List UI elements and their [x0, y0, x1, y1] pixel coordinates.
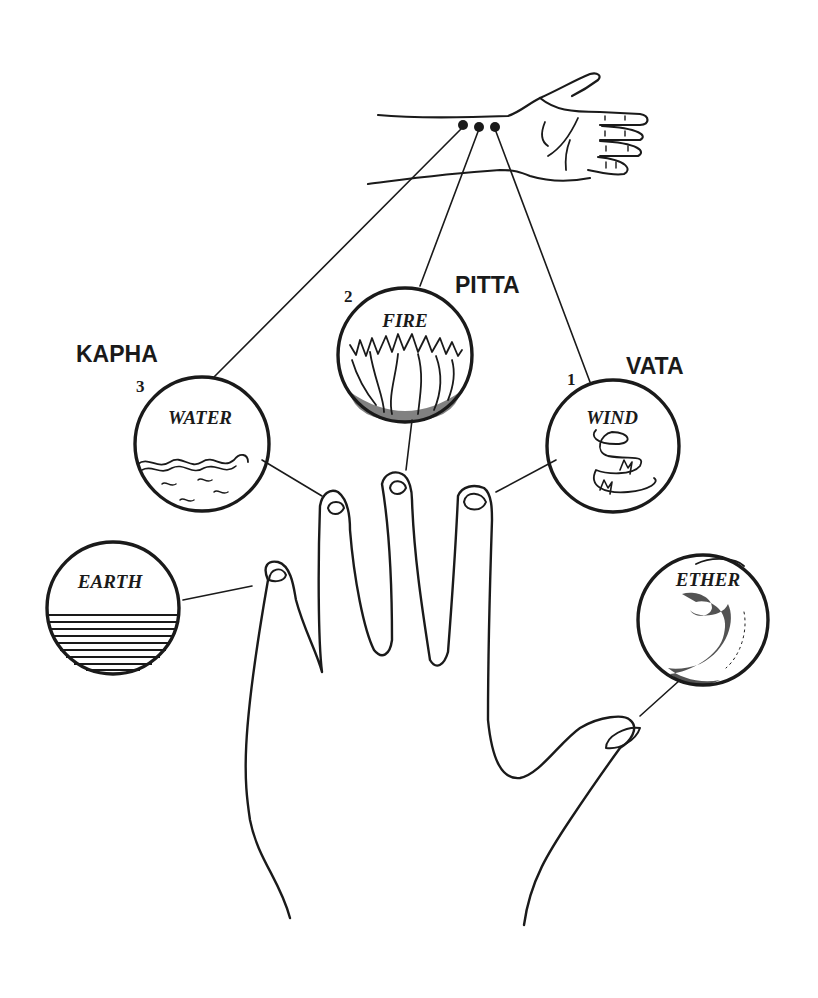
dosha-number-pitta: 2: [344, 287, 353, 306]
element-label-earth: EARTH: [77, 571, 144, 592]
element-label-ether: ETHER: [675, 569, 740, 590]
finger-connectors: [183, 420, 680, 716]
element-water: WATER: [135, 377, 269, 511]
element-fire: FIRE: [338, 288, 472, 422]
element-earth: EARTH: [47, 542, 179, 674]
element-label-fire: FIRE: [381, 310, 427, 331]
dosha-label-vata: VATA: [626, 353, 684, 379]
dosha-label-pitta: PITTA: [455, 272, 520, 298]
hand-illustration: [246, 472, 640, 925]
element-label-water: WATER: [168, 407, 232, 428]
element-label-wind: WIND: [586, 407, 638, 428]
element-ether: ETHER: [638, 555, 768, 685]
diagram-canvas: FIRE 2 PITTA WATER 3 KAPHA WIND 1 VATA: [0, 0, 818, 998]
dosha-number-kapha: 3: [136, 377, 145, 396]
wrist-illustration: [368, 73, 648, 184]
pulse-point-kapha: [458, 120, 468, 130]
element-wind: WIND: [547, 380, 679, 512]
dosha-number-vata: 1: [567, 370, 576, 389]
dosha-label-kapha: KAPHA: [76, 341, 158, 367]
